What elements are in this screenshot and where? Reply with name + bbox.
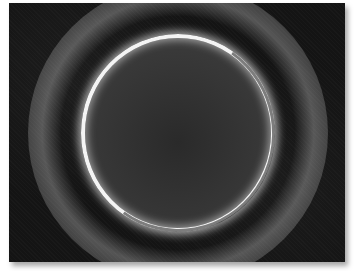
eclipse-photo xyxy=(9,3,345,262)
